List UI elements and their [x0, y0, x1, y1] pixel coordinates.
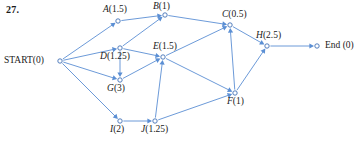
node-h: [265, 44, 269, 48]
arrowhead-icon: [157, 17, 162, 22]
node-d: [118, 46, 122, 50]
node-a: [116, 19, 120, 23]
arrowhead-icon: [261, 48, 266, 53]
edge-f-to-c: [228, 28, 235, 90]
node-c: [228, 23, 232, 27]
node-value-a: (1.5): [109, 4, 127, 14]
node-b: [163, 13, 167, 17]
node-value-e: (1.5): [159, 41, 177, 51]
node-value-i: (2): [113, 124, 124, 134]
node-g: [118, 78, 122, 82]
node-label-d: D(1.25): [100, 52, 130, 62]
node-value-g: (3): [114, 83, 125, 93]
node-name-h: H: [256, 30, 263, 40]
node-name-d: D: [100, 51, 107, 61]
arrowhead-icon: [147, 118, 152, 123]
node-f: [233, 91, 237, 95]
edge-h-to-end: [270, 43, 314, 48]
node-value-h: (2.5): [263, 30, 281, 40]
node-label-c: C(0.5): [222, 10, 247, 20]
node-value-c: (0.5): [228, 9, 246, 19]
node-label-b: B(1): [153, 2, 170, 12]
node-label-e: E(1.5): [153, 42, 177, 52]
node-label-a: A(1.5): [103, 5, 127, 15]
arrowhead-icon: [228, 28, 233, 33]
node-end: [315, 44, 319, 48]
edge-j-to-f: [158, 93, 232, 120]
node-e: [161, 55, 165, 59]
activity-network-figure: 27. START(0)A(1.5)B(1)C(0.5)D(1.25)E(1.5…: [0, 0, 357, 142]
arrowhead-icon: [110, 23, 115, 28]
arrowhead-icon: [309, 43, 314, 48]
node-label-start: START(0): [4, 56, 44, 66]
arrowhead-icon: [222, 21, 227, 26]
edge-f-to-h: [237, 48, 265, 90]
edge-a-to-b: [121, 13, 162, 20]
edge-start-to-g: [63, 62, 117, 80]
edge-b-to-c: [168, 16, 227, 27]
node-label-end: End (0): [325, 41, 354, 51]
node-label-f: F(1): [227, 97, 244, 107]
node-label-i: I(2): [110, 125, 124, 135]
edge-i-to-j: [123, 118, 152, 123]
node-name-g: G: [107, 83, 114, 93]
node-value-f: (1): [233, 96, 244, 106]
node-label-g: G(3): [107, 84, 125, 94]
node-j: [153, 119, 157, 123]
node-value-j: (1.25): [145, 124, 168, 134]
node-label-j: J(1.25): [141, 125, 168, 135]
graph-canvas: [0, 0, 357, 142]
edge-e-to-f: [166, 59, 232, 92]
arrowhead-icon: [159, 60, 164, 65]
arrowhead-icon: [155, 53, 160, 58]
node-start: [58, 59, 62, 63]
node-value-b: (1): [159, 1, 170, 11]
arrowhead-icon: [117, 72, 122, 77]
edge-j-to-e: [155, 60, 164, 118]
node-i: [118, 119, 122, 123]
node-label-h: H(2.5): [256, 31, 281, 41]
node-value-d: (1.25): [107, 51, 130, 61]
